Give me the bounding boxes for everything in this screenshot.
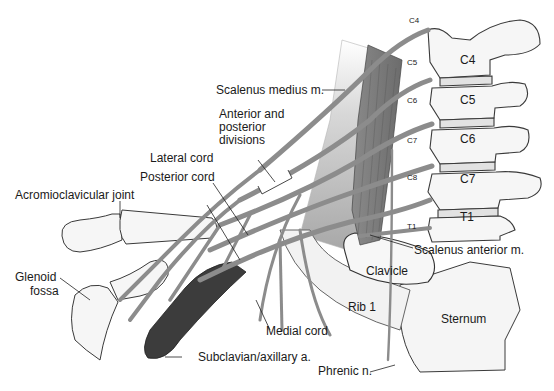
label-vertebra-c6: C6	[460, 132, 475, 146]
label-glenoid-fossa-line2: fossa	[30, 284, 59, 298]
label-clavicle: Clavicle	[366, 264, 408, 278]
brachial-plexus-diagram: Scalenus medius m. Anterior and posterio…	[0, 0, 554, 391]
label-root-c5: C5	[407, 58, 417, 67]
label-divisions-line1: Anterior and	[219, 107, 284, 121]
label-rib-1: Rib 1	[348, 300, 376, 314]
label-root-c6: C6	[407, 96, 417, 105]
label-lateral-cord: Lateral cord	[150, 151, 213, 165]
label-vertebra-c4: C4	[460, 53, 475, 67]
label-glenoid-fossa-line1: Glenoid	[15, 270, 56, 284]
label-medial-cord: Medial cord	[266, 324, 328, 338]
label-vertebra-c7: C7	[460, 172, 475, 186]
label-vertebra-t1: T1	[460, 210, 474, 224]
label-divisions-line2: posterior	[219, 120, 266, 134]
label-scalenus-medius: Scalenus medius m.	[216, 83, 324, 97]
label-phrenic-nerve: Phrenic n.	[318, 364, 372, 378]
label-scalenus-anterior: Scalenus anterior m.	[414, 243, 524, 257]
label-root-c4: C4	[409, 16, 419, 25]
label-divisions-line3: divisions	[219, 133, 265, 147]
label-vertebra-c5: C5	[460, 93, 475, 107]
label-root-t1: T1	[407, 222, 416, 231]
label-root-c7: C7	[407, 136, 417, 145]
label-sternum: Sternum	[441, 312, 486, 326]
label-subclavian-axillary-artery: Subclavian/axillary a.	[198, 350, 311, 364]
label-acromioclavicular-joint: Acromioclavicular joint	[15, 188, 134, 202]
label-root-c8: C8	[407, 173, 417, 182]
vertebral-column	[428, 20, 541, 242]
label-posterior-cord: Posterior cord	[140, 170, 215, 184]
